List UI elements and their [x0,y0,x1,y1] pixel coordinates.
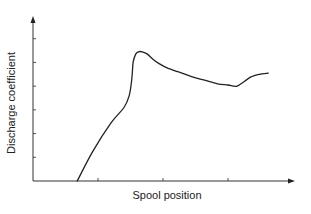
x-axis-arrow-icon [288,179,295,184]
line-chart: Spool position Discharge coefficient [0,0,311,214]
y-axis-label: Discharge coefficient [5,52,17,154]
discharge-coefficient-curve [77,52,268,182]
y-axis-arrow-icon [31,16,36,23]
x-axis-label: Spool position [132,189,201,201]
